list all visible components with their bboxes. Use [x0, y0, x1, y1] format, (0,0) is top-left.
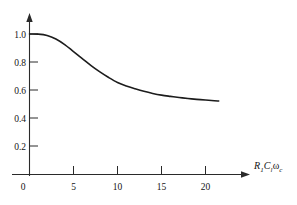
x-tick-label-10: 10 [113, 182, 123, 192]
y-tick-label-0.2: 0.2 [14, 142, 26, 152]
x-axis-label-c: C [264, 160, 271, 171]
figure-container: 1.0 0.8 0.6 0.4 0.2 0 5 10 15 20 R1Clωc [0, 0, 297, 205]
y-tick-marks [30, 34, 39, 146]
x-axis-label-omega-sub: c [279, 166, 282, 174]
y-tick-label-0.6: 0.6 [14, 86, 26, 96]
chart-plot: 1.0 0.8 0.6 0.4 0.2 0 5 10 15 20 [0, 0, 297, 205]
y-tick-label-0.8: 0.8 [14, 58, 26, 68]
x-tick-label-15: 15 [157, 182, 167, 192]
y-tick-labels: 1.0 0.8 0.6 0.4 0.2 [14, 30, 26, 152]
y-tick-label-0.4: 0.4 [14, 114, 26, 124]
x-axis [12, 171, 250, 177]
x-tick-label-5: 5 [71, 182, 76, 192]
y-axis-arrowhead [26, 13, 32, 22]
caption-partial [6, 197, 292, 205]
y-tick-label-1.0: 1.0 [14, 30, 26, 40]
y-axis [26, 13, 32, 176]
x-tick-labels: 0 5 10 15 20 [21, 182, 211, 192]
x-axis-arrowhead [241, 171, 250, 177]
x-tick-label-0: 0 [21, 182, 26, 192]
x-tick-label-20: 20 [201, 182, 211, 192]
response-curve [30, 34, 219, 101]
x-tick-marks [74, 166, 206, 175]
x-axis-label: R1Clωc [254, 160, 283, 174]
